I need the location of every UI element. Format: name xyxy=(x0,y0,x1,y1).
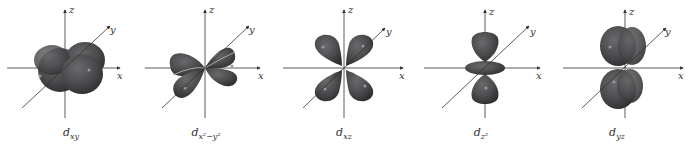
orbital-dyz-label: dyz xyxy=(548,126,686,141)
orbital-dz2-label: dz² xyxy=(412,126,550,141)
x-axis-label: x xyxy=(536,70,542,81)
orbital-dx2-y2-diagram xyxy=(137,0,275,125)
z-axis-label: z xyxy=(69,4,74,15)
z-axis-label: z xyxy=(348,4,353,15)
orbital-dxz-diagram xyxy=(275,0,413,125)
orbital-dxz-panel: z y x dxz xyxy=(275,0,413,148)
x-axis-label: x xyxy=(117,70,123,81)
z-axis-label: z xyxy=(489,6,494,17)
orbital-dx2-y2-label: dx²−y² xyxy=(137,126,275,141)
z-axis-label: z xyxy=(629,6,634,17)
y-axis-label: y xyxy=(665,26,671,37)
orbital-dyz-diagram xyxy=(548,0,686,125)
z-axis-label: z xyxy=(209,4,214,15)
y-axis-label: y xyxy=(249,24,255,35)
orbital-dxz-label: dxz xyxy=(275,126,413,141)
orbital-dxy-panel: z y x dxy xyxy=(2,0,140,148)
y-axis-label: y xyxy=(530,26,536,37)
y-axis-label: y xyxy=(110,24,116,35)
orbital-dyz-panel: z y x dyz xyxy=(548,0,686,148)
orbital-dxy-diagram xyxy=(2,0,140,125)
x-axis-label: x xyxy=(678,70,684,81)
x-axis-label: x xyxy=(258,70,264,81)
orbital-dz2-diagram xyxy=(412,0,550,125)
y-axis-label: y xyxy=(386,26,392,37)
orbital-dxy-label: dxy xyxy=(2,126,140,141)
orbital-dx2-y2-panel: z y x dx²−y² xyxy=(137,0,275,148)
orbital-dz2-panel: z y x dz² xyxy=(412,0,550,148)
x-axis-label: x xyxy=(399,70,405,81)
